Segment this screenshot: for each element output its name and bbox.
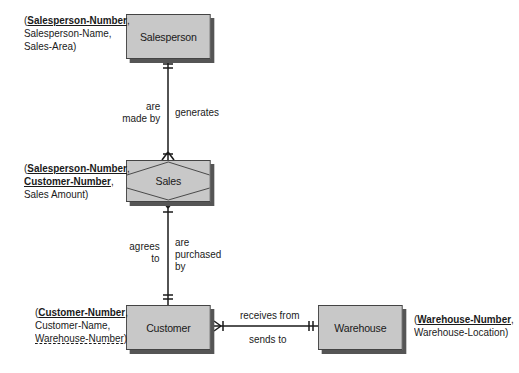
label-sends-to: sends to bbox=[249, 333, 286, 345]
entity-label: Warehouse bbox=[334, 322, 386, 334]
attributes-customer: (Customer-Number, Customer-Name, Warehou… bbox=[35, 306, 128, 345]
attributes-salesperson: (Salesperson-Number, Salesperson-Name, S… bbox=[24, 14, 130, 53]
label-are-purchased-by: are purchased by bbox=[175, 236, 221, 272]
entity-label: Salesperson bbox=[140, 31, 197, 43]
entity-label: Sales bbox=[156, 175, 182, 187]
entity-label: Customer bbox=[146, 322, 190, 334]
primary-key: Warehouse-Number bbox=[417, 313, 511, 325]
entity-customer[interactable]: Customer bbox=[126, 305, 211, 350]
primary-key: Customer-Number bbox=[24, 175, 111, 187]
entity-warehouse[interactable]: Warehouse bbox=[318, 305, 403, 350]
label-generates: generates bbox=[175, 106, 219, 118]
attributes-warehouse: (Warehouse-Number, Warehouse-Location) bbox=[414, 313, 514, 339]
foreign-key: Warehouse-Number bbox=[35, 332, 124, 344]
primary-key: Salesperson-Number bbox=[27, 14, 127, 26]
primary-key: Customer-Number bbox=[38, 306, 125, 318]
attributes-sales: (Salesperson-Number, Customer-Number, Sa… bbox=[24, 162, 130, 201]
entity-salesperson[interactable]: Salesperson bbox=[126, 14, 211, 59]
primary-key: Salesperson-Number bbox=[27, 162, 127, 174]
label-agrees-to: agrees to bbox=[130, 240, 160, 264]
label-receives-from: receives from bbox=[240, 309, 299, 321]
label-are-made-by: are made by bbox=[122, 100, 160, 124]
entity-sales[interactable]: Sales bbox=[126, 160, 211, 202]
